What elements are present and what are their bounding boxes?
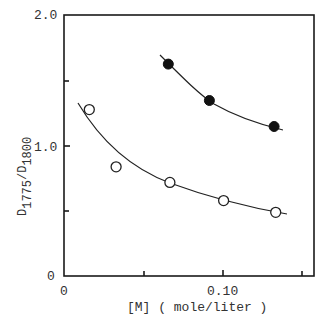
data-points xyxy=(84,59,280,217)
y-tick-label-1.0: 1.0 xyxy=(34,140,57,155)
y-tick-label-0: 0 xyxy=(47,269,55,284)
x-tick-label-0.10: 0.10 xyxy=(207,284,238,299)
plot-frame xyxy=(64,15,314,276)
y-ticks xyxy=(64,81,70,211)
y-axis-label: D1775/D1800 xyxy=(16,137,35,216)
open-data-point xyxy=(271,207,281,217)
y-tick-label-2.0: 2.0 xyxy=(34,8,57,23)
x-axis-label: [M] ( mole/liter ) xyxy=(127,300,267,315)
svg-text:D1775/D1800: D1775/D1800 xyxy=(16,137,35,216)
filled-series-curve xyxy=(160,55,283,130)
chart: 2.0 1.0 0 0 0.10 [M] ( mole/liter ) D177… xyxy=(0,0,326,326)
open-data-point xyxy=(219,196,229,206)
x-ticks xyxy=(144,270,302,276)
open-data-point xyxy=(165,177,175,187)
y-label-slash: / xyxy=(16,173,30,180)
open-series-curve xyxy=(78,103,287,214)
filled-data-point xyxy=(269,122,279,132)
y-label-sub2: 1800 xyxy=(21,137,35,166)
y-label-sub1: 1775 xyxy=(21,180,35,209)
x-tick-label-0: 0 xyxy=(60,284,68,299)
open-data-point xyxy=(84,105,94,115)
filled-data-point xyxy=(204,96,214,106)
y-label-d1: D xyxy=(16,209,30,216)
y-label-d2: D xyxy=(16,166,30,173)
filled-data-point xyxy=(163,59,173,69)
open-data-point xyxy=(111,162,121,172)
